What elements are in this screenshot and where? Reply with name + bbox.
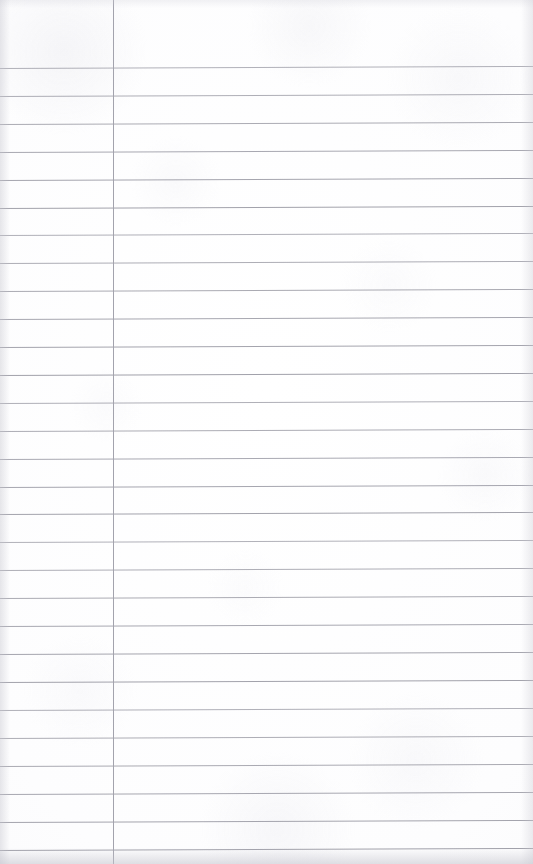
notepad-page xyxy=(0,0,533,864)
left-margin-column[interactable] xyxy=(0,0,113,864)
main-writing-column[interactable] xyxy=(114,0,533,864)
